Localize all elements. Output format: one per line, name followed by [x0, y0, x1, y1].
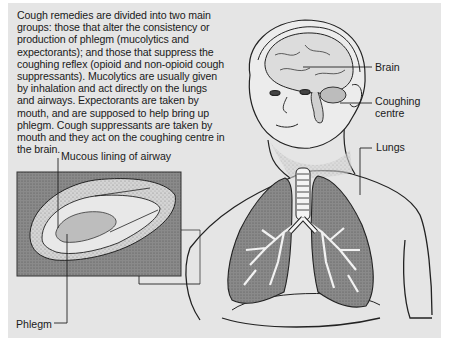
label-brain: Brain	[375, 61, 400, 73]
anatomy-illustration	[0, 0, 450, 350]
airway-inset	[17, 172, 181, 276]
coughing-centre-shape	[320, 87, 346, 103]
label-coughing-centre-line2: centre	[375, 107, 404, 119]
right-lung	[308, 176, 373, 307]
left-lung	[228, 178, 298, 303]
trachea	[296, 168, 310, 220]
label-lungs: Lungs	[376, 141, 405, 153]
head	[249, 20, 365, 148]
label-mucous-lining: Mucous lining of airway	[61, 150, 171, 162]
label-coughing-centre-line1: Coughing	[375, 95, 420, 107]
label-phlegm: Phlegm	[16, 318, 52, 330]
